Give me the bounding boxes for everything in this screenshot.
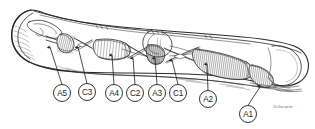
callout-a4-label: A4 <box>109 89 119 98</box>
callout-c3-label: C3 <box>82 88 93 97</box>
callout-a5-label: A5 <box>57 89 67 98</box>
callout-c1-label: C1 <box>173 89 184 98</box>
callout-a1-group[interactable]: A1 <box>240 87 261 123</box>
anatomical-figure: A5 C3 A4 C2 <box>0 0 315 129</box>
a5-pulley-structure <box>57 34 75 54</box>
callout-a3-label: A3 <box>152 89 162 98</box>
artist-signature: Schwartz <box>273 104 293 109</box>
finger-pulley-illustration: A5 C3 A4 C2 <box>0 0 315 129</box>
callout-a1-label: A1 <box>243 110 253 119</box>
callout-a2-label: A2 <box>203 95 213 104</box>
callout-c2-label: C2 <box>130 89 141 98</box>
